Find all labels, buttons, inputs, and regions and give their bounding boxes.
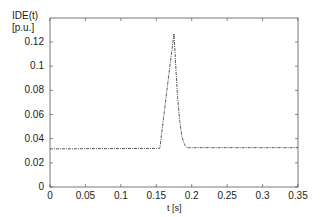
y-tick-label: 0.08 <box>4 85 44 95</box>
x-tick-label: 0.05 <box>70 191 100 201</box>
y-axis-unit: [p.u.] <box>12 22 34 33</box>
x-tick-label: 0.25 <box>212 191 242 201</box>
y-tick-label: 0.12 <box>4 37 44 47</box>
y-tick-label: 0.04 <box>4 134 44 144</box>
y-tick-label: 0.1 <box>4 61 44 71</box>
x-tick-label: 0.15 <box>141 191 171 201</box>
line-chart <box>0 0 320 217</box>
x-tick-label: 0.35 <box>283 191 313 201</box>
axis-ticks <box>50 18 298 187</box>
plot-frame <box>50 18 298 187</box>
ide-series-line <box>50 34 298 149</box>
x-tick-label: 0.1 <box>106 191 136 201</box>
y-tick-label: 0.06 <box>4 110 44 120</box>
x-tick-label: 0.2 <box>177 191 207 201</box>
y-axis-label: IDE(t) <box>12 10 38 21</box>
x-axis-label: t [s] <box>167 203 182 214</box>
x-tick-label: 0 <box>35 191 65 201</box>
x-tick-label: 0.3 <box>248 191 278 201</box>
y-tick-label: 0.02 <box>4 158 44 168</box>
